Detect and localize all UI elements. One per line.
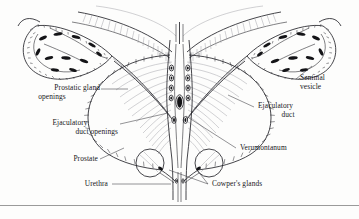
- label-cowpers-glands: Cowper's glands: [212, 180, 302, 189]
- label-ejaculatory-duct: Ejaculatory duct: [258, 102, 318, 119]
- label-prostate-text: Prostate: [38, 155, 98, 164]
- label-ejaculatory-duct-line2: duct: [258, 111, 318, 120]
- label-seminal-vesicle: Seminal vesicle: [300, 74, 356, 91]
- label-prostatic-gland-openings-line2: openings: [4, 93, 100, 102]
- label-prostatic-gland-openings: Prostatic gland openings: [4, 84, 100, 101]
- label-verumontanum-text: Verumontanum: [240, 144, 320, 153]
- label-ejaculatory-duct-openings-line2: duct openings: [22, 128, 118, 137]
- label-urethra-text: Urethra: [52, 180, 108, 189]
- label-cowpers-glands-text: Cowper's glands: [212, 180, 302, 189]
- anatomy-figure: .ol { fill:none; stroke:#25252a; stroke-…: [0, 0, 359, 219]
- label-prostate: Prostate: [38, 155, 98, 164]
- label-ejaculatory-duct-openings: Ejaculatory duct openings: [22, 119, 118, 136]
- label-verumontanum: Verumontanum: [240, 144, 320, 153]
- label-urethra: Urethra: [52, 180, 108, 189]
- label-seminal-vesicle-line2: vesicle: [300, 83, 356, 92]
- bottom-rule: [0, 205, 359, 206]
